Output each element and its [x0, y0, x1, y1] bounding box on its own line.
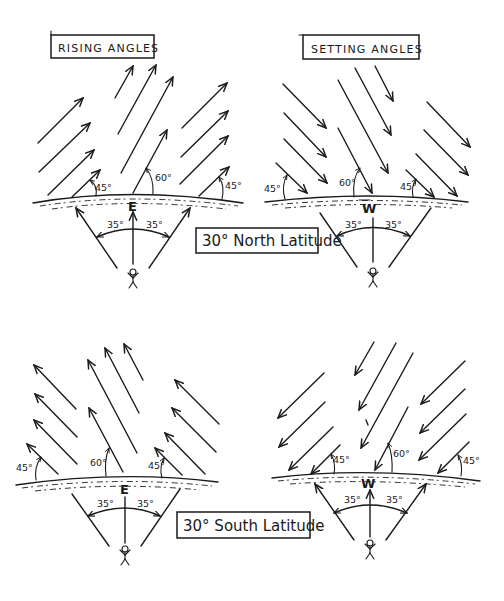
direction-label-west: W	[359, 200, 376, 216]
south-latitude-label: 30° South Latitude	[177, 512, 324, 538]
fan-angle-right: 35°	[146, 219, 163, 230]
title-box-rising-angles: RISING ANGLES	[51, 31, 159, 58]
observer-figure-icon	[368, 268, 378, 287]
panel-title: RISING ANGLES	[58, 42, 159, 55]
fan-angle-left: 35°	[345, 219, 362, 230]
observer-view-fan: 35° 35°	[315, 484, 426, 540]
sun-ray-arrows	[27, 344, 219, 475]
direction-label-west: W	[361, 476, 375, 491]
observer-figure-icon	[128, 269, 138, 288]
observer-view-fan: 35° 35°	[72, 489, 180, 546]
sun-ray-arrows	[276, 66, 470, 197]
fan-angle-left: 35°	[344, 494, 361, 505]
observer-view-fan: 35° 35°	[76, 208, 190, 268]
fan-angle-left: 35°	[97, 498, 114, 509]
angle-label-right: 45°	[463, 455, 480, 466]
angle-label-right: 45°	[148, 460, 165, 471]
angle-label-center: 60°	[339, 177, 356, 188]
horizon-ground	[272, 473, 480, 487]
angle-label-right: 45°	[225, 180, 242, 191]
fan-angle-right: 35°	[385, 219, 402, 230]
observer-figure-icon	[120, 546, 130, 565]
fan-angle-right: 35°	[137, 498, 154, 509]
svg-text:W: W	[362, 201, 376, 216]
panel-title: SETTING ANGLES	[311, 43, 423, 56]
horizon-ground	[16, 477, 218, 491]
angle-label-left: 45°	[333, 454, 350, 465]
fan-angle-left: 35°	[107, 219, 124, 230]
fan-angle-right: 35°	[386, 494, 403, 505]
angle-arcs: 45° 60° 45°	[331, 443, 480, 476]
horizon-ground	[33, 195, 243, 210]
angle-label-right: 45°	[400, 181, 417, 192]
sun-angle-diagram: RISING ANGLES 45° 60° 45°	[0, 0, 504, 601]
angle-label-left: 45°	[264, 183, 281, 194]
direction-label-east: E	[120, 482, 129, 497]
angle-label-left: 45°	[16, 462, 33, 473]
title-box-setting-angles: SETTING ANGLES	[299, 35, 423, 59]
svg-text:30° South Latitude: 30° South Latitude	[183, 517, 324, 535]
angle-arcs: 45° 60° 45°	[16, 448, 165, 480]
sun-ray-arrows	[38, 65, 229, 197]
angle-label-center: 60°	[155, 172, 172, 183]
sun-ray-arrows	[278, 342, 469, 474]
svg-text:30° North Latitude: 30° North Latitude	[202, 232, 342, 250]
angle-label-left: 45°	[95, 182, 112, 193]
angle-label-center: 60°	[90, 457, 107, 468]
observer-figure-icon	[365, 540, 375, 559]
angle-label-center: 60°	[393, 448, 410, 459]
north-latitude-label: 30° North Latitude	[196, 228, 342, 253]
